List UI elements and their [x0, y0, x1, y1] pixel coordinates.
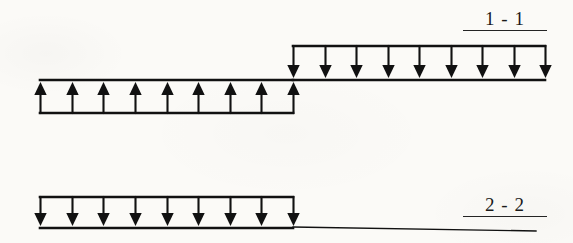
block-1-1-lower-left-arrow-head-4 — [161, 82, 173, 95]
block-1-1-upper-right-arrow-head-7 — [508, 65, 520, 78]
section-label-1-1-underline — [463, 30, 547, 32]
block-2-2-left-arrow-head-3 — [129, 213, 141, 226]
block-2-2-left-arrow-head-6 — [224, 213, 236, 226]
section-label-2-2-text: 2 - 2 — [463, 195, 547, 215]
baseline-2-2 — [293, 227, 536, 231]
block-1-1-lower-left-arrow-head-2 — [97, 82, 109, 95]
section-label-1-1-text: 1 - 1 — [463, 9, 547, 29]
block-1-1-upper-right — [287, 46, 551, 80]
diagram-page: 1 - 1 2 - 2 — [0, 0, 573, 243]
block-1-1-upper-right-arrow-head-8 — [539, 65, 551, 78]
block-1-1-lower-left-arrow-head-5 — [192, 82, 204, 95]
block-1-1-upper-right-arrow-head-3 — [382, 65, 394, 78]
block-2-2-left-arrow-head-4 — [161, 213, 173, 226]
block-2-2-left-arrow-head-7 — [255, 213, 267, 226]
block-1-1-upper-right-arrow-head-2 — [350, 65, 362, 78]
block-1-1-lower-left-arrow-head-6 — [224, 82, 236, 95]
block-1-1-lower-left-arrow-head-7 — [255, 82, 267, 95]
block-2-2-left-arrow-head-1 — [66, 213, 78, 226]
block-1-1-lower-left-arrow-head-3 — [129, 82, 141, 95]
section-label-1-1: 1 - 1 — [463, 9, 547, 31]
block-1-1-lower-left-arrow-head-8 — [287, 82, 299, 95]
block-1-1-upper-right-arrow-head-1 — [319, 65, 331, 78]
block-2-2-left-arrow-head-2 — [97, 213, 109, 226]
block-1-1-lower-left — [34, 80, 299, 113]
block-1-1-lower-left-arrow-head-1 — [66, 82, 78, 95]
block-1-1-upper-right-arrow-head-6 — [476, 65, 488, 78]
block-1-1-upper-right-arrow-head-0 — [287, 65, 299, 78]
block-2-2-left — [34, 197, 299, 228]
block-2-2-left-arrow-head-8 — [287, 213, 299, 226]
section-label-2-2: 2 - 2 — [463, 195, 547, 217]
block-1-1-lower-left-arrow-head-0 — [34, 82, 46, 95]
block-1-1-upper-right-arrow-head-4 — [413, 65, 425, 78]
block-2-2-left-arrow-head-0 — [34, 213, 46, 226]
section-2-2 — [34, 197, 536, 231]
section-label-2-2-underline — [463, 216, 547, 218]
section-1-1 — [34, 46, 551, 113]
block-1-1-upper-right-arrow-head-5 — [445, 65, 457, 78]
block-2-2-left-arrow-head-5 — [192, 213, 204, 226]
